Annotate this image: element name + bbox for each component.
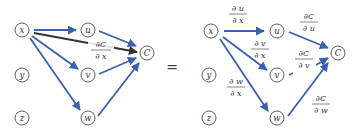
- node-y: y: [15, 68, 29, 82]
- svg-text:∂ u: ∂ u: [232, 4, 244, 13]
- edge-v-C-start: [289, 73, 293, 75]
- edge-x-w: [30, 38, 80, 110]
- left-total-derivative-label: ∂C ∂ x: [88, 38, 114, 62]
- label-dw-dx: ∂ w ∂ x: [227, 77, 245, 98]
- node-x: x: [204, 24, 218, 38]
- svg-text:x: x: [209, 26, 214, 36]
- node-x: x: [15, 23, 29, 37]
- node-u: u: [270, 24, 284, 38]
- svg-text:v: v: [86, 70, 91, 80]
- node-C: C: [331, 46, 345, 60]
- label-dC-dv: ∂C ∂ v: [295, 49, 313, 70]
- svg-text:∂ w: ∂ w: [314, 106, 328, 115]
- node-v: v: [270, 68, 284, 82]
- fraction-denominator: ∂ x: [95, 52, 107, 61]
- equals-sign: =: [166, 59, 178, 75]
- fraction-numerator: ∂C: [96, 40, 106, 49]
- edge-u-C: [289, 32, 328, 48]
- node-v: v: [81, 68, 95, 82]
- svg-text:v: v: [275, 70, 280, 80]
- svg-text:u: u: [85, 25, 90, 35]
- svg-text:z: z: [19, 113, 25, 123]
- node-w: w: [270, 111, 284, 125]
- node-z: z: [202, 111, 216, 125]
- svg-text:C: C: [144, 48, 151, 58]
- svg-text:∂ x: ∂ x: [254, 51, 266, 60]
- svg-text:∂ x: ∂ x: [232, 16, 244, 25]
- svg-text:∂C: ∂C: [316, 94, 326, 103]
- label-du-dx: ∂ u ∂ x: [229, 4, 247, 25]
- node-y: y: [202, 68, 216, 82]
- svg-text:C: C: [335, 48, 342, 58]
- label-dv-dx: ∂ v ∂ x: [251, 39, 269, 60]
- svg-text:w: w: [84, 113, 92, 123]
- label-dC-dw: ∂C ∂ w: [312, 94, 330, 115]
- node-w: w: [81, 111, 95, 125]
- chain-rule-diagram: ∂C ∂ x x y z u v w C: [0, 0, 355, 138]
- edge-x-w: [220, 39, 268, 111]
- node-z: z: [15, 111, 29, 125]
- label-dC-du: ∂C ∂ u: [300, 12, 318, 33]
- svg-text:∂ x: ∂ x: [230, 89, 242, 98]
- svg-text:y: y: [206, 70, 212, 80]
- svg-text:∂ u: ∂ u: [303, 24, 315, 33]
- svg-text:∂ v: ∂ v: [298, 61, 310, 70]
- svg-text:∂C: ∂C: [299, 49, 309, 58]
- node-u: u: [81, 23, 95, 37]
- svg-text:∂ v: ∂ v: [254, 39, 266, 48]
- svg-text:y: y: [19, 70, 25, 80]
- svg-text:w: w: [273, 113, 281, 123]
- svg-text:∂ w: ∂ w: [229, 77, 243, 86]
- svg-text:z: z: [206, 113, 212, 123]
- svg-text:∂C: ∂C: [304, 12, 314, 21]
- node-C: C: [140, 46, 154, 60]
- svg-text:x: x: [20, 25, 25, 35]
- svg-text:u: u: [274, 26, 279, 36]
- edge-x-v: [32, 36, 78, 69]
